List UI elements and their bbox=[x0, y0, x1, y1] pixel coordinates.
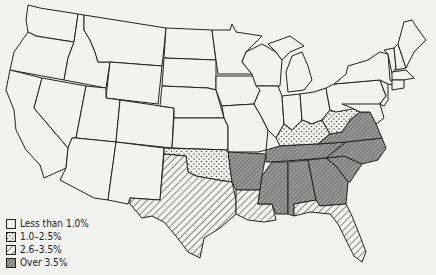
swatch-blank-icon bbox=[6, 219, 16, 229]
state-north-dakota bbox=[164, 28, 216, 60]
state-wyoming bbox=[106, 62, 162, 104]
legend: Less than 1.0% 1.0–2.5% 2.6–3.5% Over 3.… bbox=[6, 217, 89, 269]
legend-label: 2.6–3.5% bbox=[20, 243, 62, 256]
legend-label: Less than 1.0% bbox=[20, 217, 89, 230]
swatch-light-hatch-icon bbox=[6, 245, 16, 255]
legend-item-over-3-5: Over 3.5% bbox=[6, 256, 89, 269]
swatch-dark-hatch-icon bbox=[6, 258, 16, 268]
state-iowa bbox=[216, 76, 260, 106]
state-arizona bbox=[60, 138, 116, 200]
state-connecticut bbox=[392, 80, 404, 90]
legend-item-less-than-1: Less than 1.0% bbox=[6, 217, 89, 230]
state-arkansas bbox=[228, 152, 266, 190]
legend-label: 1.0–2.5% bbox=[20, 230, 62, 243]
state-south-dakota bbox=[162, 58, 216, 90]
swatch-dots-icon bbox=[6, 232, 16, 242]
legend-item-2-6-to-3-5: 2.6–3.5% bbox=[6, 243, 89, 256]
legend-item-1-to-2-5: 1.0–2.5% bbox=[6, 230, 89, 243]
state-florida bbox=[294, 200, 366, 262]
legend-label: Over 3.5% bbox=[20, 256, 67, 269]
state-massachusetts bbox=[392, 70, 414, 80]
state-kansas bbox=[172, 118, 228, 150]
state-new-mexico bbox=[108, 142, 164, 204]
